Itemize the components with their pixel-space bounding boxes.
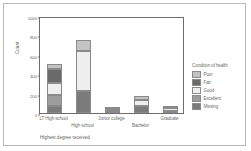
x-axis-tick-label: Bachelor <box>132 123 149 128</box>
y-axis-tick-label: 0 <box>35 113 37 118</box>
bar-segment <box>47 95 62 107</box>
legend-item: Excellent <box>192 95 244 103</box>
legend-label: Excellent <box>204 96 221 101</box>
legend-swatch <box>192 79 201 87</box>
y-axis-tick-label: 200 <box>30 93 37 98</box>
legend-title: Condition of health <box>192 63 244 68</box>
bar-segment <box>76 91 91 113</box>
bar-segment <box>76 40 91 52</box>
plot-area: 02004006008001000 <box>39 17 184 114</box>
legend-swatch <box>192 95 201 103</box>
bar-segment <box>47 106 62 113</box>
legend-label: Poor <box>204 72 213 77</box>
legend-label: Good <box>204 88 215 93</box>
bar-segment <box>47 83 62 95</box>
y-axis-tick-mark <box>38 76 40 77</box>
plot-area-wrapper: 02004006008001000 <box>39 17 184 114</box>
x-axis-tick-label: High school <box>71 123 93 128</box>
bar-segment <box>76 51 91 90</box>
bar-segment <box>163 111 178 113</box>
bar-segment <box>105 111 120 113</box>
bar-stack <box>47 64 62 113</box>
bar-stack <box>163 106 178 113</box>
x-axis-tick-label: Graduate <box>161 116 179 121</box>
y-axis-tick-label: 800 <box>30 35 37 40</box>
legend-swatch <box>192 103 201 111</box>
legend-item: Good <box>192 87 244 95</box>
legend-label: Missing <box>204 104 219 109</box>
y-axis-tick-mark <box>38 37 40 38</box>
chart-frame: Count 02004006008001000 Highest degree r… <box>3 3 246 146</box>
legend-label: Fair <box>204 80 211 85</box>
legend-item: Missing <box>192 103 244 111</box>
bar-segment <box>47 69 62 83</box>
y-axis-tick-label: 400 <box>30 74 37 79</box>
x-axis-tick-label: Junior college <box>98 116 124 121</box>
y-axis-tick-label: 1000 <box>28 16 37 21</box>
y-axis-tick-mark <box>38 95 40 96</box>
legend-item: Fair <box>192 79 244 87</box>
legend: Condition of health PoorFairGoodExcellen… <box>192 63 244 111</box>
x-axis-tick-label: LT High school <box>39 116 67 121</box>
bar-stack <box>76 40 91 113</box>
y-axis-tick-mark <box>38 18 40 19</box>
legend-item: Poor <box>192 71 244 79</box>
y-axis-tick-label: 600 <box>30 54 37 59</box>
bar-stack <box>105 107 120 113</box>
y-axis-title: Count <box>15 42 20 54</box>
x-axis-title: Highest degree received <box>40 135 90 140</box>
legend-swatch <box>192 87 201 95</box>
bar-stack <box>134 96 149 113</box>
y-axis-tick-mark <box>38 56 40 57</box>
bar-segment <box>134 106 149 113</box>
legend-swatch <box>192 71 201 79</box>
legend-items: PoorFairGoodExcellentMissing <box>192 71 244 111</box>
